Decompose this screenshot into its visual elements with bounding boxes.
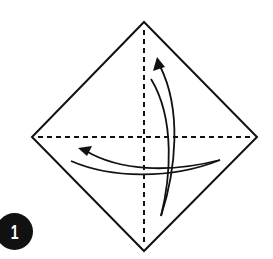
origami-diagram (0, 0, 273, 259)
step-number-label: 1 (11, 222, 19, 242)
